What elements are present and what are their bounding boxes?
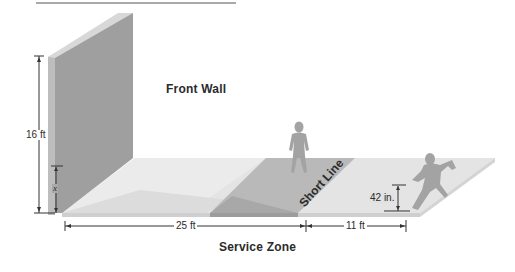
racquetball-court-diagram [0, 0, 515, 272]
back-length-label: 11 ft [344, 221, 367, 231]
service-zone-label: Service Zone [219, 241, 296, 253]
front-wall-label: Front Wall [166, 83, 226, 95]
wall-height-label: 16 ft [24, 130, 47, 140]
player-height-label: 42 in. [369, 193, 395, 203]
x-variable-label: x [52, 184, 58, 193]
court-length-label: 25 ft [174, 221, 197, 231]
